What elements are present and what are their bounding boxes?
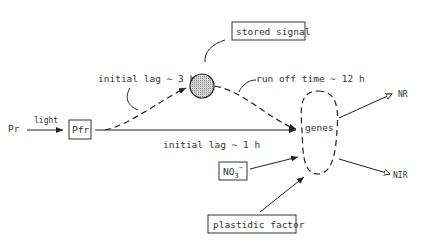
run-off-time-label: run off time ∼ 12 h <box>256 73 365 84</box>
initial-lag-3h-label: initial lag ∼ 3 h <box>98 73 195 84</box>
nir-label: NIR <box>393 171 408 180</box>
light-label: light <box>34 116 58 125</box>
run-off-time-leader <box>239 80 256 92</box>
genes-to-nr-arrow <box>339 94 392 118</box>
nr-label: NR <box>398 90 408 99</box>
plastidic-factor-to-genes-arrow <box>260 177 304 212</box>
plastidic-factor-label: plastidic factor <box>213 219 305 230</box>
pfr-node: Pfr <box>69 120 91 139</box>
stored-signal-leader <box>205 40 225 62</box>
genes-label: genes <box>305 122 334 133</box>
initial-lag-1h-label: initial lag ∼ 1 h <box>163 139 260 150</box>
pfr-label: Pfr <box>72 124 89 135</box>
no3-to-genes-arrow <box>250 157 298 169</box>
stored-signal-node: stored signal <box>232 22 310 40</box>
stored-signal-to-genes-dashed-arrow <box>215 86 296 129</box>
pr-label: Pr <box>8 123 20 134</box>
diagram-canvas: Pr light Pfr initial lag ∼ 1 h initial l… <box>0 0 423 243</box>
stored-signal-label: stored signal <box>236 26 310 37</box>
initial-lag-3h-leader <box>127 88 138 110</box>
pfr-to-stored-signal-dashed-arrow <box>105 88 186 130</box>
plastidic-factor-node: plastidic factor <box>208 215 305 233</box>
genes-node: genes <box>301 91 337 174</box>
stored-signal-circle <box>190 74 214 98</box>
genes-to-nir-arrow <box>339 159 390 174</box>
no3-node: NO3− <box>219 162 247 180</box>
